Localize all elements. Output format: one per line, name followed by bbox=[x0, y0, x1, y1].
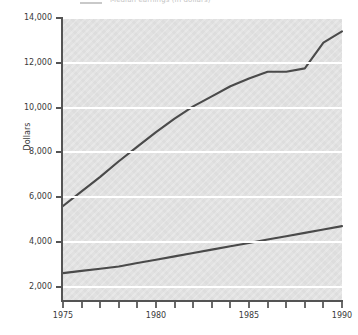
x-tick bbox=[192, 302, 194, 308]
y-axis-line bbox=[61, 17, 63, 302]
series-lines bbox=[63, 18, 342, 300]
y-tick bbox=[56, 196, 61, 198]
x-tick bbox=[118, 302, 120, 308]
gridline bbox=[63, 62, 342, 64]
x-tick bbox=[341, 302, 343, 308]
y-tick-label: 6,000 bbox=[8, 192, 52, 201]
x-tick bbox=[267, 302, 269, 308]
y-tick-label: 4,000 bbox=[8, 237, 52, 246]
cutoff-legend-strip: Median earnings (in dollars) bbox=[0, 0, 358, 9]
x-tick bbox=[136, 302, 138, 308]
x-tick bbox=[62, 302, 64, 308]
x-tick bbox=[304, 302, 306, 308]
series-line-1 bbox=[63, 31, 342, 206]
x-tick-label: 1975 bbox=[43, 311, 83, 320]
y-tick bbox=[56, 17, 61, 19]
gridline bbox=[63, 17, 342, 19]
y-tick bbox=[56, 62, 61, 64]
legend-swatch bbox=[80, 2, 102, 4]
gridline bbox=[63, 151, 342, 153]
y-tick-label: 12,000 bbox=[8, 58, 52, 67]
x-tick bbox=[229, 302, 231, 308]
x-tick bbox=[322, 302, 324, 308]
x-axis-line bbox=[61, 300, 343, 302]
y-tick-label: 10,000 bbox=[8, 103, 52, 112]
y-axis-title: Dollars bbox=[23, 102, 32, 172]
y-tick bbox=[56, 241, 61, 243]
gridline bbox=[63, 241, 342, 243]
x-tick bbox=[155, 302, 157, 308]
x-tick-label: 1980 bbox=[136, 311, 176, 320]
y-tick bbox=[56, 286, 61, 288]
y-tick bbox=[56, 107, 61, 109]
x-tick bbox=[81, 302, 83, 308]
legend-label: Median earnings (in dollars) bbox=[110, 0, 210, 4]
x-tick-label: 1990 bbox=[322, 311, 358, 320]
gridline bbox=[63, 196, 342, 198]
x-tick bbox=[174, 302, 176, 308]
x-tick-label: 1985 bbox=[229, 311, 269, 320]
plot-area bbox=[63, 18, 342, 300]
y-tick-label: 14,000 bbox=[8, 13, 52, 22]
y-tick bbox=[56, 151, 61, 153]
gridline bbox=[63, 107, 342, 109]
y-tick-label: 2,000 bbox=[8, 282, 52, 291]
x-tick bbox=[248, 302, 250, 308]
x-tick bbox=[285, 302, 287, 308]
x-tick bbox=[99, 302, 101, 308]
chart-figure: Median earnings (in dollars) Dollars 2,0… bbox=[0, 0, 358, 335]
x-tick bbox=[211, 302, 213, 308]
series-line-2 bbox=[63, 226, 342, 273]
gridline bbox=[63, 286, 342, 288]
y-tick-label: 8,000 bbox=[8, 147, 52, 156]
